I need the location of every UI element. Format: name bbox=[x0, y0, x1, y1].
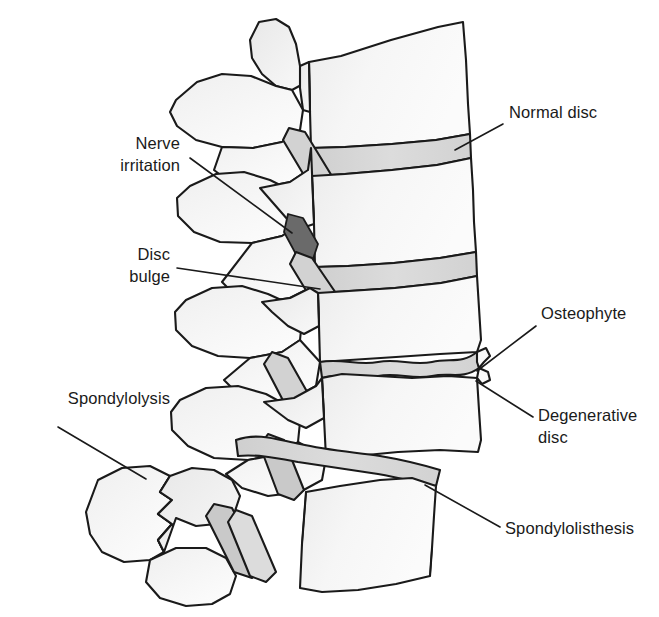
label-degenerative-disc: Degenerative disc bbox=[538, 405, 637, 449]
vertebra-body-4 bbox=[322, 374, 481, 458]
label-nerve-irritation: Nerve irritation bbox=[58, 133, 180, 177]
label-normal-disc: Normal disc bbox=[509, 102, 597, 124]
vertebra-body-5-slipped bbox=[300, 478, 436, 592]
label-spondylolysis: Spondylolysis bbox=[14, 388, 170, 410]
label-disc-bulge: Disc bulge bbox=[58, 244, 170, 288]
leader-spondylolisthesis bbox=[425, 485, 500, 527]
vertebra-body-1 bbox=[309, 22, 470, 148]
vertebra-body-2 bbox=[312, 158, 476, 267]
leader-spondylolysis bbox=[58, 427, 146, 479]
label-osteophyte: Osteophyte bbox=[541, 303, 626, 325]
leader-degenerative-disc bbox=[476, 381, 533, 417]
label-spondylolisthesis: Spondylolisthesis bbox=[505, 518, 634, 540]
transverse-process-5 bbox=[146, 548, 236, 606]
spine-diagram-figure: Normal disc Nerve irritation Disc bulge … bbox=[0, 0, 659, 617]
